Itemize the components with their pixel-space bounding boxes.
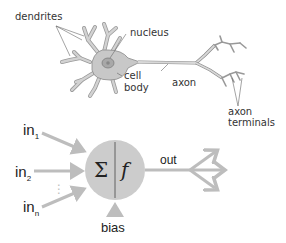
sum-symbol: Σ bbox=[94, 158, 108, 182]
neuron-diagram: dendrites nucleus cell body axon axon te… bbox=[0, 0, 286, 243]
biological-neuron: dendrites nucleus cell body axon axon te… bbox=[15, 11, 275, 128]
axon-shape bbox=[138, 45, 215, 63]
axon-label: axon bbox=[172, 77, 196, 88]
axon-terminals-label-line1: axon bbox=[228, 106, 252, 117]
cell-body-label-line2: body bbox=[124, 82, 149, 93]
axon-leader bbox=[161, 64, 168, 71]
cell-body-label-line1: cell bbox=[124, 70, 141, 81]
axon-terminals-shape bbox=[215, 36, 246, 86]
dendrites-label: dendrites bbox=[15, 11, 62, 22]
output-branch-up bbox=[190, 152, 215, 170]
axon-terminals-label-line2: terminals bbox=[228, 117, 275, 128]
input-arrow-1 bbox=[42, 133, 84, 151]
output-branch-down bbox=[190, 170, 215, 188]
dendrites-leader bbox=[56, 26, 84, 56]
output-label: out bbox=[160, 153, 177, 167]
input-label-n: inn bbox=[23, 198, 39, 218]
bias-label: bias bbox=[101, 220, 125, 235]
nucleus-label: nucleus bbox=[130, 27, 169, 38]
inputs-ellipsis: ⋮ bbox=[53, 182, 65, 196]
input-label-1: in1 bbox=[23, 121, 40, 141]
input-label-2: in2 bbox=[15, 163, 32, 183]
artificial-neuron: ⋮ in1 in2 inn Σ f bias out bbox=[15, 121, 222, 235]
